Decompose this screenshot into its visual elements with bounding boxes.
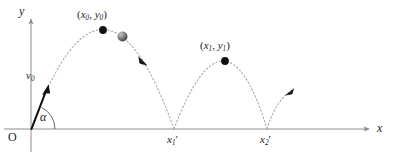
trajectory-arc-3 — [267, 90, 292, 129]
projectile-sphere — [118, 32, 128, 42]
second-bounce-label: x2′ — [260, 134, 271, 147]
trajectory-arc-1 — [31, 30, 174, 130]
origin-label: O — [8, 131, 17, 143]
direction-arrow-icon-rising — [285, 88, 294, 95]
v0-subscript: 0 — [31, 75, 35, 83]
first-bounce-label: x1′ — [167, 134, 178, 147]
x-axis-label: x — [377, 122, 382, 134]
initial-velocity-label: v0 — [26, 70, 35, 83]
trajectory-group — [31, 30, 292, 130]
trajectory-arc-2 — [174, 61, 267, 129]
x2-prime: ′ — [269, 133, 271, 145]
x1-prime: ′ — [176, 133, 178, 145]
y-axis-label: y — [19, 5, 24, 17]
apex-0-coordinate-label: (x0, y0) — [77, 9, 107, 22]
close-paren: ) — [226, 39, 230, 51]
close-paren: ) — [103, 8, 107, 20]
launch-angle-label: α — [40, 111, 46, 123]
axes-group — [4, 19, 369, 152]
apex-1-coordinate-label: (x1, y1) — [200, 40, 230, 53]
apex-0-dot — [99, 26, 107, 34]
apex-1-dot — [221, 57, 229, 65]
figure-canvas — [0, 0, 395, 158]
projectile-trajectory-figure: y x O v0 α (x0, y0) (x1, y1) x1′ x2′ — [0, 0, 395, 158]
direction-arrow-icon-descending — [138, 56, 147, 65]
